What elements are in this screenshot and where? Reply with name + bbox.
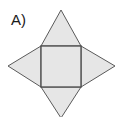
- triangle-bottom: [41, 87, 81, 117]
- pyramid-net-diagram: [0, 0, 124, 117]
- square-base: [41, 46, 81, 87]
- triangle-top: [41, 10, 81, 46]
- triangle-left: [8, 46, 41, 87]
- triangle-right: [81, 46, 115, 87]
